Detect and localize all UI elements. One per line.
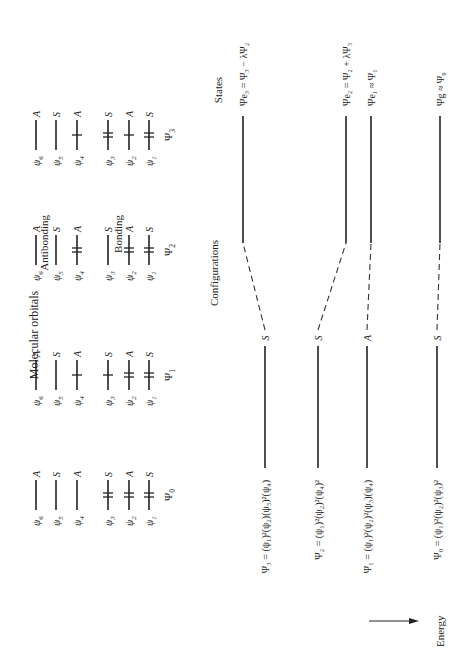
symmetry-label: S	[51, 112, 62, 117]
configuration-psi0: Ψ₀ = (ψ₁)²(ψ₂)²(ψ₃)²S	[432, 336, 444, 560]
symmetry-label: S	[51, 472, 62, 477]
mo-set-label: Ψ3	[162, 129, 177, 141]
symmetry-label: A	[72, 110, 83, 118]
symmetry-label: S	[103, 112, 114, 117]
orbital-level: ψ1S	[144, 472, 158, 526]
configuration-formula: Ψ₃ = (ψ₁)²(ψ₂)(ψ₃)²(ψ₄)	[260, 480, 272, 573]
orbital-label: ψ1	[144, 156, 158, 166]
mo-set-label: Ψ2	[162, 244, 177, 256]
orbital-level: ψ3S	[103, 472, 117, 526]
mo-set-1: ψ6Aψ5Sψ4Aψ3Sψ2Aψ1SΨ1	[31, 350, 177, 406]
orbital-label: ψ5	[51, 271, 65, 281]
symmetry-label: S	[144, 352, 155, 357]
orbital-level: ψ2A	[124, 350, 138, 406]
state-formula: Ψe₂ = Ψ₂ + λΨ₃	[341, 43, 352, 106]
state-correlation-diagram: Molecular orbitals Antibonding Bonding C…	[0, 0, 458, 660]
bonding-label: Bonding	[112, 215, 124, 253]
orbital-level: ψ2A	[124, 470, 138, 526]
configurations-label: Configurations	[208, 240, 220, 306]
orbital-level: ψ5S	[51, 352, 65, 406]
orbital-level: ψ1S	[144, 112, 158, 166]
correlation-dashed-line	[318, 243, 346, 330]
orbital-level: ψ5S	[51, 112, 65, 166]
symmetry-label: A	[124, 110, 135, 118]
orbital-level: ψ4A	[72, 350, 86, 406]
symmetry-label: A	[31, 350, 42, 358]
symmetry-label: S	[144, 472, 155, 477]
mo-set-0: ψ6Aψ5Sψ4Aψ3Sψ2Aψ1SΨ0	[31, 470, 177, 526]
configuration-psi2: Ψ₂ = (ψ₁)²(ψ₂)²(ψ₄)²S	[313, 336, 325, 560]
orbital-level: ψ3S	[103, 112, 117, 166]
symmetry-label: S	[144, 112, 155, 117]
state-formula: Ψg ≈ Ψ₀	[435, 72, 446, 106]
orbital-level: ψ3S	[103, 352, 117, 406]
configuration-symmetry: S	[260, 336, 271, 341]
orbital-label: ψ4	[72, 396, 86, 406]
orbital-label: ψ6	[31, 271, 45, 281]
symmetry-label: S	[51, 352, 62, 357]
orbital-label: ψ4	[72, 156, 86, 166]
configuration-formula: Ψ₁ = (ψ₁)²(ψ₂)²(ψ₃)(ψ₄)	[362, 480, 374, 573]
symmetry-label: A	[124, 470, 135, 478]
symmetry-label: A	[72, 470, 83, 478]
mo-set-label: Ψ1	[162, 369, 177, 381]
orbital-level: ψ5S	[51, 227, 65, 281]
orbital-level: ψ2A	[124, 225, 138, 281]
mo-set-2: ψ6Aψ5Sψ4Aψ3Sψ2Aψ1SΨ2	[31, 225, 177, 281]
mo-set-3: ψ6Aψ5Sψ4Aψ3Sψ2Aψ1SΨ3	[31, 110, 177, 166]
orbital-label: ψ2	[124, 516, 138, 526]
symmetry-label: A	[124, 350, 135, 358]
symmetry-label: A	[31, 470, 42, 478]
orbital-label: ψ3	[103, 271, 117, 281]
orbital-label: ψ4	[72, 271, 86, 281]
energy-arrow-head	[409, 618, 419, 624]
antibonding-label: Antibonding	[38, 215, 50, 271]
symmetry-label: S	[144, 227, 155, 232]
symmetry-label: S	[103, 227, 114, 232]
configuration-symmetry: S	[432, 336, 443, 341]
orbital-label: ψ6	[31, 156, 45, 166]
orbital-level: ψ1S	[144, 227, 158, 281]
configuration-formula: Ψ₀ = (ψ₁)²(ψ₂)²(ψ₃)²	[432, 480, 444, 560]
configuration-symmetry: A	[362, 334, 373, 342]
state-e2: Ψe₂ = Ψ₂ + λΨ₃	[318, 43, 352, 330]
orbital-level: ψ6A	[31, 470, 45, 526]
orbital-level: ψ4A	[72, 225, 86, 281]
correlation-lines: Ψ₃ = (ψ₁)²(ψ₂)(ψ₃)²(ψ₄)SΨ₂ = (ψ₁)²(ψ₂)²(…	[238, 43, 446, 573]
orbital-level: ψ4A	[72, 470, 86, 526]
molecular-orbital-sets: ψ6Aψ5Sψ4Aψ3Sψ2Aψ1SΨ0ψ6Aψ5Sψ4Aψ3Sψ2Aψ1SΨ1…	[31, 110, 177, 526]
configuration-formula: Ψ₂ = (ψ₁)²(ψ₂)²(ψ₄)²	[313, 480, 325, 560]
orbital-label: ψ1	[144, 516, 158, 526]
configuration-symmetry: S	[313, 336, 324, 341]
symmetry-label: A	[124, 225, 135, 233]
orbital-label: ψ2	[124, 396, 138, 406]
orbital-label: ψ5	[51, 516, 65, 526]
symmetry-label: A	[72, 225, 83, 233]
states-label: States	[212, 77, 224, 103]
symmetry-label: A	[31, 110, 42, 118]
mo-set-label: Ψ0	[162, 489, 177, 501]
orbital-label: ψ6	[31, 516, 45, 526]
orbital-label: ψ4	[72, 516, 86, 526]
orbital-label: ψ1	[144, 396, 158, 406]
orbital-label: ψ3	[103, 156, 117, 166]
orbital-level: ψ5S	[51, 472, 65, 526]
configuration-psi3: Ψ₃ = (ψ₁)²(ψ₂)(ψ₃)²(ψ₄)S	[260, 336, 272, 574]
orbital-label: ψ5	[51, 396, 65, 406]
state-formula: Ψe₃ = Ψ₃ − λΨ₂	[238, 43, 249, 106]
state-g: Ψg ≈ Ψ₀	[435, 72, 446, 330]
orbital-label: ψ1	[144, 271, 158, 281]
orbital-label: ψ2	[124, 271, 138, 281]
orbital-label: ψ3	[103, 516, 117, 526]
orbital-label: ψ2	[124, 156, 138, 166]
symmetry-label: S	[103, 472, 114, 477]
orbital-level: ψ4A	[72, 110, 86, 166]
symmetry-label: A	[72, 350, 83, 358]
state-e1: Ψe₁ ≈ Ψ₁	[366, 69, 377, 330]
orbital-level: ψ1S	[144, 352, 158, 406]
orbital-label: ψ6	[31, 396, 45, 406]
orbital-level: ψ6A	[31, 110, 45, 166]
state-formula: Ψe₁ ≈ Ψ₁	[366, 69, 377, 106]
correlation-dashed-line	[243, 243, 265, 330]
diagram-title: Molecular orbitals	[27, 291, 41, 380]
